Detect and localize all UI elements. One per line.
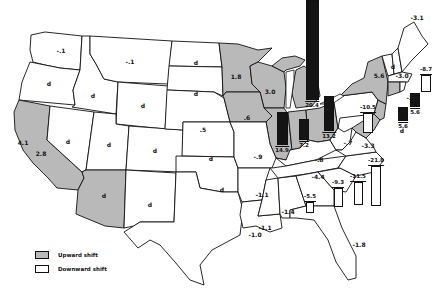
label-me: -3.1 (410, 15, 423, 21)
label-ok: d (220, 187, 224, 193)
label-nv: d (66, 139, 70, 145)
label-ky: -.8 (315, 157, 324, 163)
label-tx: -1.0 (248, 232, 261, 238)
state-ri (400, 82, 406, 92)
label-or: d (47, 81, 51, 87)
label-nd: d (194, 60, 198, 66)
state-ks (182, 122, 234, 157)
state-az (76, 170, 126, 228)
label-ia: .6 (244, 115, 250, 121)
label-nm: d (148, 202, 152, 208)
label-co: d (153, 148, 157, 154)
legend: Upward shift Downward shift (35, 250, 107, 278)
bar-nc (371, 166, 381, 206)
bar-ma (421, 75, 431, 92)
label-ms: -1.4 (281, 209, 294, 215)
label-sd: d (194, 91, 198, 97)
label-wy: d (141, 103, 145, 109)
bar-label-pa: -10.5 (360, 105, 376, 113)
bar-label-sc: -11.5 (350, 174, 366, 182)
label-fl: -1.8 (352, 242, 365, 248)
label-nh: -3.0 (395, 73, 408, 79)
state-ct (388, 82, 400, 96)
bar-label-ma: -8.7 (420, 67, 432, 75)
label-ca-city: 4.1 (18, 140, 29, 146)
state-nm (124, 170, 176, 228)
legend-label-downward: Downward shift (58, 266, 107, 272)
label-ks: d (209, 156, 213, 162)
label-mo: -.9 (254, 154, 263, 160)
label-id: d (91, 93, 95, 99)
legend-item-downward: Downward shift (35, 264, 107, 273)
bar-pa (363, 113, 373, 133)
bar-nj (398, 107, 408, 121)
bar-label-in: 7.2 (299, 141, 309, 149)
label-ar: -1.1 (255, 192, 268, 198)
bar-label-mi: 20.4 (305, 101, 319, 109)
label-la: -1.1 (258, 225, 271, 231)
label-ne: .5 (200, 127, 206, 133)
bar-in (299, 119, 309, 140)
bar-label-oh: 13.2 (322, 132, 336, 140)
bar-oh (324, 96, 334, 131)
bar-label-nc: -21.8 (368, 158, 384, 166)
downward-swatch (35, 265, 49, 273)
bar-label-il: 14.9 (275, 146, 289, 154)
bar-label-ga: -9.3 (332, 180, 344, 188)
bar-ga (334, 188, 343, 207)
label-wa: -.1 (57, 48, 66, 54)
bar-ct (410, 93, 420, 107)
bar-il (277, 112, 288, 145)
label-wi: 3.0 (265, 89, 276, 95)
label-tn: -4.4 (311, 174, 324, 180)
legend-item-upward: Upward shift (35, 250, 107, 259)
legend-label-upward: Upward shift (58, 252, 98, 258)
bar-mi (306, 0, 319, 100)
label-ut: d (107, 142, 111, 148)
label-va: -3.3 (361, 143, 374, 149)
label-az: d (102, 193, 106, 199)
bar-label-nj: 5.6 (398, 122, 408, 130)
label-mt: -.1 (126, 59, 135, 65)
label-mn: 1.8 (231, 74, 242, 80)
bar-sc (354, 182, 363, 205)
label-ca: 2.8 (36, 151, 47, 157)
bar-label-ct: 5.6 (410, 108, 420, 116)
bar-label-al: -5.5 (304, 194, 316, 202)
lake-michigan (286, 70, 294, 108)
state-fl (290, 206, 356, 280)
state-me (398, 22, 428, 72)
label-wv: -.7 (344, 140, 353, 146)
upward-swatch (35, 251, 49, 259)
bar-al (306, 202, 314, 213)
label-ny: 5.6 (374, 73, 385, 79)
label-vt: d (391, 64, 395, 70)
